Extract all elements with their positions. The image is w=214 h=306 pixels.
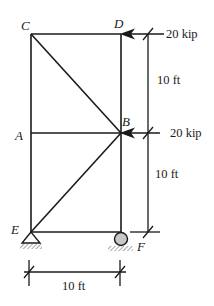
member-EB bbox=[31, 133, 121, 232]
ground-hatch-icon bbox=[20, 244, 42, 249]
load-label-D: 20 kip bbox=[166, 27, 198, 41]
node-label-F: F bbox=[136, 239, 146, 254]
pin-support-E bbox=[20, 232, 42, 249]
dim-upper-height: 10 ft bbox=[157, 73, 181, 87]
dim-lower-height: 10 ft bbox=[155, 167, 179, 181]
pin-icon bbox=[22, 232, 40, 243]
ground-hatch-icon bbox=[108, 246, 133, 251]
dim-width: 10 ft bbox=[62, 279, 86, 293]
member-CB bbox=[31, 34, 121, 133]
node-label-C: C bbox=[21, 18, 30, 33]
node-label-D: D bbox=[113, 16, 124, 31]
node-label-E: E bbox=[10, 222, 19, 237]
roller-support-F bbox=[108, 233, 133, 252]
node-label-A: A bbox=[14, 128, 23, 143]
truss-diagram: 20 kip 20 kip 10 ft 10 ft 10 ft C D A B … bbox=[0, 0, 214, 306]
node-label-B: B bbox=[122, 114, 130, 129]
roller-icon bbox=[115, 233, 128, 246]
load-label-B: 20 kip bbox=[170, 126, 202, 140]
truss-members bbox=[31, 34, 121, 232]
